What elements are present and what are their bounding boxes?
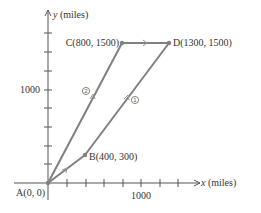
x-axis-label: x (miles) <box>200 177 236 189</box>
point-b <box>83 153 87 157</box>
x-tick-label: 1000 <box>131 190 151 201</box>
route-diagram: 2 1 y (miles) x (miles) 1000 1000 A(0, 0… <box>0 0 261 213</box>
y-axis-label: y (miles) <box>52 9 88 21</box>
point-c <box>120 41 124 45</box>
point-c-label: C(800, 1500) <box>66 37 119 49</box>
point-d <box>167 41 171 45</box>
svg-text:1: 1 <box>133 97 137 103</box>
route-1 <box>48 43 169 183</box>
x-axis <box>14 179 200 187</box>
route-2 <box>48 43 169 183</box>
route-marker-1: 1 <box>131 96 138 103</box>
point-a <box>46 181 50 185</box>
svg-text:2: 2 <box>84 88 88 94</box>
points <box>46 41 171 185</box>
route-marker-2: 2 <box>82 87 89 94</box>
y-axis <box>44 10 52 200</box>
point-d-label: D(1300, 1500) <box>173 37 232 49</box>
y-tick-label: 1000 <box>20 84 40 95</box>
point-a-label: A(0, 0) <box>16 187 45 199</box>
point-b-label: B(400, 300) <box>89 151 137 163</box>
